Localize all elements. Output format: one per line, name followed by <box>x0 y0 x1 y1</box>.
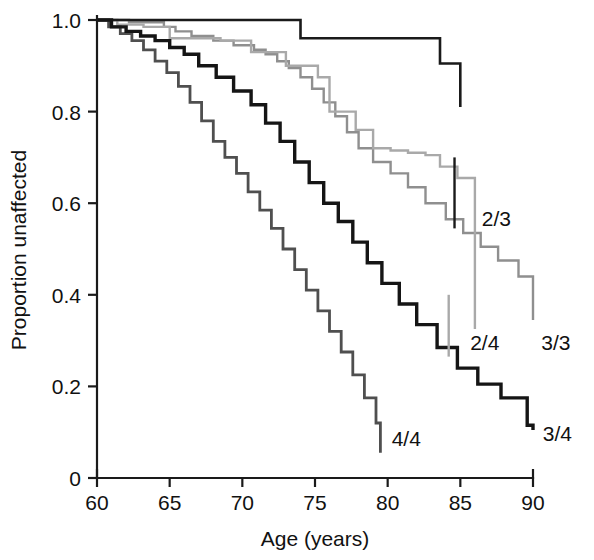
y-tick-label-0.8: 0.8 <box>52 101 81 124</box>
survival-chart-figure: 00.20.40.60.81.060657075808590 2/33/32/4… <box>0 0 594 560</box>
axes-group <box>97 16 533 478</box>
curves-group <box>97 20 533 453</box>
y-tick-label-1.0: 1.0 <box>52 9 81 32</box>
y-tick-label-0: 0 <box>69 467 81 490</box>
y-tick-label-0.2: 0.2 <box>52 375 81 398</box>
x-tick-label-60: 60 <box>85 491 108 514</box>
curve-2-3 <box>97 20 460 107</box>
series-labels-group: 2/33/32/43/44/4 <box>392 157 573 450</box>
x-tick-label-65: 65 <box>158 491 181 514</box>
x-tick-label-70: 70 <box>231 491 254 514</box>
curve-3-4 <box>97 20 533 430</box>
y-axis-title: Proportion unaffected <box>7 150 30 350</box>
series-label-2-4: 2/4 <box>470 331 500 354</box>
axis-lines <box>97 16 533 478</box>
series-label-3-3: 3/3 <box>541 331 570 354</box>
x-axis-title: Age (years) <box>261 527 370 550</box>
series-label-4-4: 4/4 <box>392 427 422 450</box>
axis-ticks-group: 00.20.40.60.81.060657075808590 <box>52 9 545 514</box>
y-tick-label-0.4: 0.4 <box>52 284 82 307</box>
x-tick-label-85: 85 <box>449 491 472 514</box>
kaplan-meier-plot: 00.20.40.60.81.060657075808590 2/33/32/4… <box>0 0 594 560</box>
series-label-2-3: 2/3 <box>482 207 511 230</box>
y-tick-label-0.6: 0.6 <box>52 192 81 215</box>
curve-2-4 <box>97 20 475 329</box>
curve-4-4 <box>97 20 380 453</box>
x-tick-label-80: 80 <box>376 491 399 514</box>
x-tick-label-90: 90 <box>521 491 544 514</box>
x-tick-label-75: 75 <box>303 491 326 514</box>
series-label-3-4: 3/4 <box>543 422 573 445</box>
